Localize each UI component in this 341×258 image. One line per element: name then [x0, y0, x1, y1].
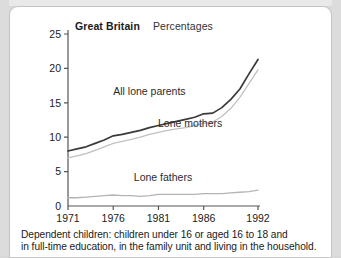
- series-line: [68, 70, 258, 158]
- series-annotation-label: Lone mothers: [158, 117, 222, 129]
- y-axis-tick-label: 10: [49, 131, 61, 143]
- series-line: [68, 190, 258, 198]
- series-annotation-label: Lone fathers: [134, 171, 192, 183]
- window-left-strip: [0, 0, 9, 256]
- chart-footnote-line-2: in full-time education, in the family un…: [21, 241, 331, 253]
- chart-footnote-line-1: Dependent children: children under 16 or…: [21, 229, 331, 241]
- x-axis-tick-label: 1986: [192, 212, 216, 222]
- chart-card: Great BritainPercentages 051015202519711…: [9, 6, 332, 258]
- x-axis-tick-label: 1971: [56, 212, 80, 222]
- series-annotation-label: All lone parents: [113, 85, 185, 97]
- x-axis-tick-label: 1992: [246, 212, 270, 222]
- x-axis-tick-label: 1981: [147, 212, 171, 222]
- line-chart-plot: 051015202519711976198119861992All lone p…: [10, 7, 332, 222]
- y-axis-tick-label: 20: [49, 62, 61, 74]
- x-axis-tick-label: 1976: [102, 212, 126, 222]
- y-axis-tick-label: 15: [49, 97, 61, 109]
- window-right-strip: [332, 0, 341, 256]
- y-axis-tick-label: 5: [55, 165, 61, 177]
- chart-footnote: Dependent children: children under 16 or…: [21, 229, 331, 254]
- y-axis-tick-label: 25: [49, 28, 61, 40]
- series-line: [68, 59, 258, 151]
- y-axis-tick-label: 0: [55, 200, 61, 212]
